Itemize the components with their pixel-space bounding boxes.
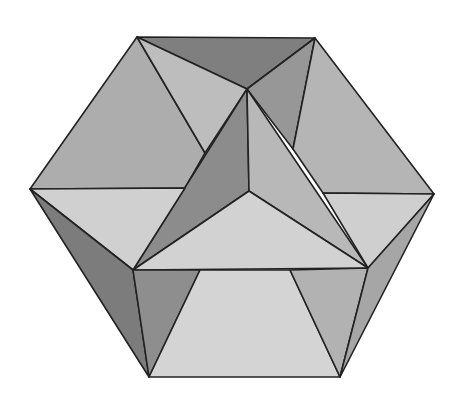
face-upper-right-outer	[293, 38, 434, 194]
polyhedron-diagram	[0, 0, 461, 396]
